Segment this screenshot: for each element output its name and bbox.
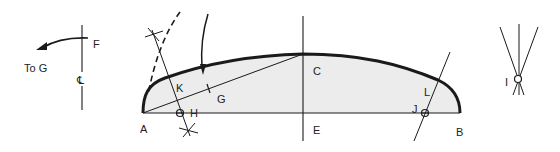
cross-mark-top-icon <box>145 28 163 41</box>
converging-line-left <box>500 27 524 95</box>
label-i: I <box>505 76 508 88</box>
arrow-to-g <box>42 38 88 48</box>
label-b: B <box>456 126 463 138</box>
label-h: H <box>190 107 198 119</box>
centerline-symbol: ℄ <box>76 74 84 86</box>
label-c: C <box>313 65 321 77</box>
point-i-circle <box>515 76 522 83</box>
label-a: A <box>140 123 148 135</box>
arrow-head-icon <box>36 42 47 50</box>
label-l: L <box>424 86 430 98</box>
construction-diagram: F To G ℄ <box>0 0 560 152</box>
main-figure: A H K G C E J L B <box>140 12 463 141</box>
label-f: F <box>93 38 100 50</box>
label-g: G <box>217 93 226 105</box>
arc-to-g <box>202 14 208 68</box>
converging-line-right <box>513 27 538 95</box>
label-k: K <box>176 82 184 94</box>
cross-mark-bottom-icon <box>179 123 198 137</box>
label-to-g: To G <box>24 62 47 74</box>
label-e: E <box>313 124 320 136</box>
left-detail: F To G ℄ <box>24 25 100 110</box>
label-j: J <box>412 103 418 115</box>
